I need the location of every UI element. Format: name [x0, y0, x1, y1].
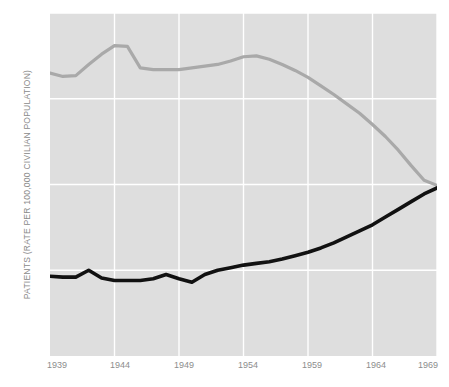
plot-area [50, 13, 437, 356]
x-tick-label-1969: 1969 [418, 360, 438, 370]
x-tick-label-1959: 1959 [302, 360, 322, 370]
y-axis-title: PATIENTS (RATE PER 100,000 CIVILIAN POPU… [20, 13, 34, 356]
chart-container: PATIENTS (RATE PER 100,000 CIVILIAN POPU… [0, 0, 449, 387]
x-tick-label-1944: 1944 [110, 360, 130, 370]
x-tick-label-1954: 1954 [238, 360, 258, 370]
plot-svg [50, 13, 437, 356]
gridlines [50, 13, 437, 356]
x-tick-label-1949: 1949 [174, 360, 194, 370]
x-tick-label-1939: 1939 [47, 360, 67, 370]
x-tick-label-1964: 1964 [366, 360, 386, 370]
